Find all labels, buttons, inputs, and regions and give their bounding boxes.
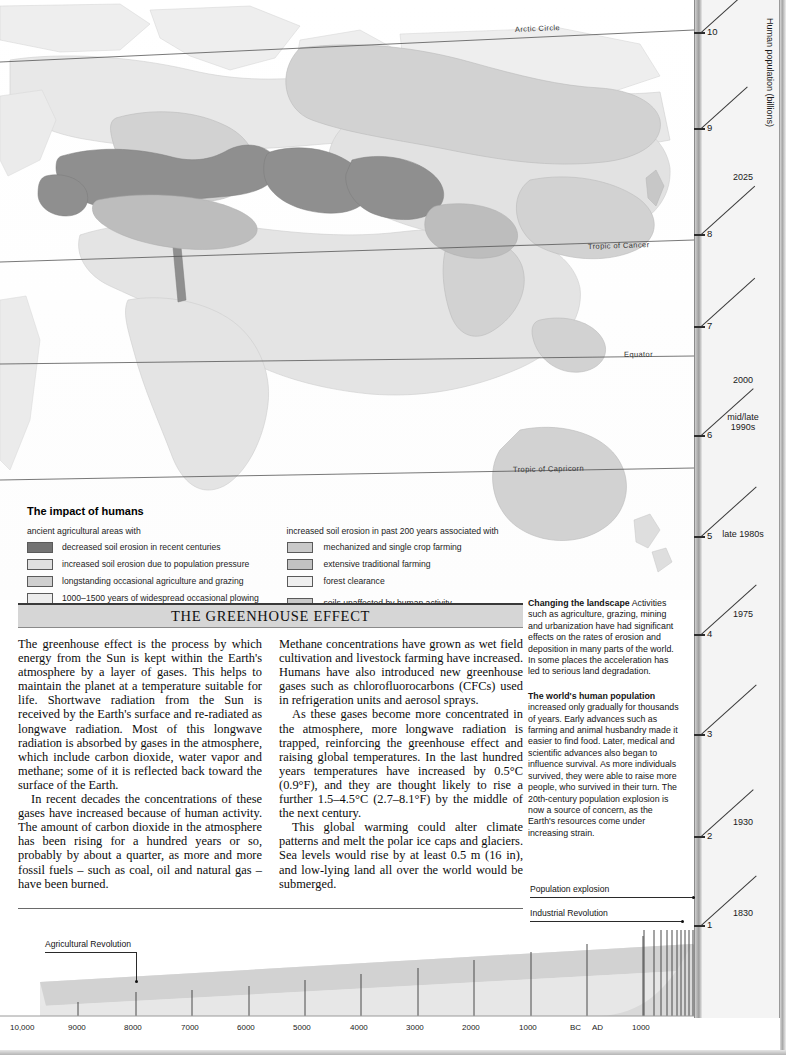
axis-tick-label: 5 (707, 530, 712, 541)
svg-text:3000: 3000 (406, 1023, 424, 1032)
annotation-point (681, 920, 684, 923)
legend-swatch (27, 576, 53, 587)
legend-swatch (287, 542, 313, 553)
map-legend: The impact of humans ancient agricultura… (27, 505, 527, 600)
year-marker-late-1980s: late 1980s (713, 529, 773, 539)
sidenote-changing-the-landscape: Changing the landscape Activities such a… (528, 598, 680, 678)
legend-item-label: 1000–1500 years of widespread occasional… (62, 593, 259, 604)
annotation-point (692, 896, 695, 899)
legend-subtitle-right: increased soil erosion in past 200 years… (287, 526, 527, 537)
axis-tick (694, 536, 705, 538)
axis-tick (694, 836, 705, 838)
article-column-left: The greenhouse effect is the process by … (18, 637, 262, 891)
legend-item-label: longstanding occasional agriculture and … (62, 576, 244, 587)
svg-text:4000: 4000 (350, 1023, 368, 1032)
legend-swatch (287, 559, 313, 570)
legend-item-label: mechanized and single crop farming (324, 542, 462, 553)
legend-swatch (287, 576, 313, 587)
annotation-label-agricultural-revolution: Agricultural Revolution (45, 939, 131, 949)
legend-item-label: increased soil erosion due to population… (62, 559, 249, 570)
article-bottom-rule (18, 908, 523, 909)
legend-item-label: decreased soil erosion in recent centuri… (62, 542, 221, 553)
annotation-label-industrial-revolution: Industrial Revolution (530, 908, 608, 918)
population-growth-chart: 10,000 9000 8000 7000 6000 5000 4000 300… (0, 930, 694, 1055)
axis-tick-label: 10 (707, 26, 718, 37)
article-paragraph: In recent decades the concentrations of … (18, 792, 262, 891)
axis-tick-label: 3 (707, 728, 712, 739)
greenhouse-effect-article: THE GREENHOUSE EFFECT The greenhouse eff… (18, 603, 523, 928)
legend-column-ancient: ancient agricultural areas with decrease… (27, 526, 265, 613)
legend-swatch (27, 542, 53, 553)
annotation-rule (530, 921, 683, 922)
axis-tick (694, 32, 705, 34)
annotation-point (135, 980, 138, 983)
legend-item-label: extensive traditional farming (324, 559, 431, 570)
axis-tick (694, 326, 705, 328)
leader-line (701, 789, 754, 837)
sidenote-world-human-population: The world's human population increased o… (528, 691, 680, 839)
axis-title: Human population (billions) (765, 18, 775, 127)
leader-line (701, 278, 755, 327)
axis-tick-label: 8 (707, 228, 712, 239)
svg-text:8000: 8000 (124, 1023, 142, 1032)
year-marker-mid-late-1990s: mid/late1990s (717, 412, 769, 432)
page-right-edge (780, 0, 786, 1055)
side-notes: Changing the landscape Activities such a… (528, 598, 680, 852)
svg-text:AD: AD (592, 1023, 603, 1032)
map-label-equator: Equator (624, 350, 653, 359)
year-marker-2025: 2025 (721, 172, 765, 182)
map-label-tropic-of-capricorn: Tropic of Capricorn (513, 464, 584, 474)
axis-tick-label: 9 (707, 122, 712, 133)
leader-line (701, 186, 755, 235)
axis-tick (694, 435, 705, 437)
population-axis: Human population (billions) 10 9 8 7 6 5… (694, 0, 780, 1018)
svg-text:1000: 1000 (519, 1023, 537, 1032)
sidenote-body: increased only gradually for thousands o… (528, 702, 679, 837)
axis-tick (694, 734, 705, 736)
year-marker-1975: 1975 (721, 609, 765, 619)
axis-tick-label: 6 (707, 429, 712, 440)
year-marker-1830: 1830 (721, 908, 765, 918)
legend-subtitle-left: ancient agricultural areas with (27, 526, 265, 537)
article-title: THE GREENHOUSE EFFECT (171, 608, 370, 625)
annotation-rule (45, 952, 137, 953)
legend-swatch (27, 559, 53, 570)
svg-text:BC: BC (570, 1023, 581, 1032)
axis-tick (694, 634, 705, 636)
article-paragraph: As these gases become more concentrated … (279, 707, 523, 820)
svg-text:2000: 2000 (462, 1023, 480, 1032)
leader-line (701, 875, 757, 925)
annotation-rule (530, 897, 695, 898)
axis-tick (694, 128, 705, 130)
article-paragraph: This global warming could alter climate … (279, 820, 523, 890)
annotation-label-population-explosion: Population explosion (530, 884, 609, 894)
legend-column-modern: increased soil erosion in past 200 years… (287, 526, 527, 613)
legend-item: mechanized and single crop farming (287, 540, 527, 554)
leader-line (701, 684, 757, 734)
article-header: THE GREENHOUSE EFFECT (18, 605, 523, 628)
legend-item: longstanding occasional agriculture and … (27, 574, 265, 588)
axis-tick-label: 4 (707, 628, 712, 639)
axis-tick-label: 1 (707, 919, 712, 930)
svg-text:9000: 9000 (68, 1023, 86, 1032)
article-paragraph: Methane concentrations have grown as wet… (279, 637, 523, 707)
legend-title: The impact of humans (27, 505, 527, 517)
legend-item: decreased soil erosion in recent centuri… (27, 540, 265, 554)
page-root: Arctic Circle Tropic of Cancer Equator T… (0, 0, 786, 1055)
legend-item: extensive traditional farming (287, 557, 527, 571)
annotation-stem (136, 952, 137, 982)
axis-tick (694, 234, 705, 236)
axis-tick-label: 2 (707, 830, 712, 841)
article-column-right: Methane concentrations have grown as wet… (279, 637, 523, 891)
legend-item-label: forest clearance (324, 576, 385, 587)
sidenote-lead: Changing the landscape (528, 598, 630, 608)
svg-text:1000: 1000 (632, 1023, 650, 1032)
legend-item: forest clearance (287, 574, 527, 588)
axis-tick (694, 925, 705, 927)
sidenote-lead: The world's human population (528, 691, 655, 701)
svg-text:10,000: 10,000 (10, 1023, 35, 1032)
page-bottom-edge (0, 1050, 786, 1055)
legend-swatch (27, 593, 53, 604)
svg-text:6000: 6000 (237, 1023, 255, 1032)
svg-text:5000: 5000 (293, 1023, 311, 1032)
